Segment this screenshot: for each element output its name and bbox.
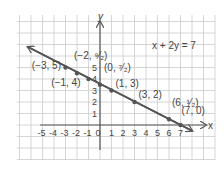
y-tick-label: 1 bbox=[92, 109, 97, 119]
x-tick-label: 7 bbox=[178, 128, 183, 138]
data-point bbox=[75, 71, 79, 75]
point-label: (0, ⁷⁄₂) bbox=[104, 62, 131, 73]
y-axis-label: y bbox=[97, 11, 104, 22]
data-point bbox=[86, 77, 90, 81]
y-tick-label: 3 bbox=[92, 86, 97, 96]
data-point bbox=[132, 100, 136, 104]
x-tick-label: 6 bbox=[167, 128, 172, 138]
x-tick-label: 5 bbox=[155, 128, 160, 138]
data-point bbox=[109, 88, 113, 92]
data-points: (−3, 5)(−2, ⁹⁄₂)(−1, 4)(0, ⁷⁄₂)(1, 3)(3,… bbox=[32, 50, 205, 127]
y-tick-label: 2 bbox=[92, 97, 97, 107]
x-tick-label: -2 bbox=[72, 128, 80, 138]
point-label: (−3, 5) bbox=[32, 60, 61, 71]
x-tick-label: -5 bbox=[38, 128, 46, 138]
x-tick-label: 0 bbox=[96, 128, 101, 138]
point-label: (1, 3) bbox=[116, 78, 139, 89]
tick-labels: -5-4-3-2-10123456712345 bbox=[38, 63, 184, 139]
point-label: (7, 0) bbox=[182, 105, 205, 116]
point-label: (−1, 4) bbox=[51, 77, 80, 88]
x-tick-label: 4 bbox=[144, 128, 149, 138]
point-label: (−2, ⁹⁄₂) bbox=[74, 50, 107, 61]
x-tick-label: -3 bbox=[61, 128, 69, 138]
x-axis-label: x bbox=[208, 120, 213, 131]
x-tick-label: -4 bbox=[49, 128, 57, 138]
x-tick-label: 1 bbox=[109, 128, 114, 138]
data-point bbox=[167, 117, 171, 121]
x-tick-label: 3 bbox=[132, 128, 137, 138]
data-point bbox=[98, 83, 102, 87]
point-label: (3, 2) bbox=[139, 89, 162, 100]
equation-label: x + 2y = 7 bbox=[152, 40, 196, 51]
data-point bbox=[63, 65, 67, 69]
y-tick-label: 5 bbox=[92, 63, 97, 73]
data-point bbox=[178, 123, 182, 127]
x-tick-label: -1 bbox=[84, 128, 92, 138]
coordinate-graph: -5-4-3-2-10123456712345 (−3, 5)(−2, ⁹⁄₂)… bbox=[0, 0, 224, 170]
x-tick-label: 2 bbox=[121, 128, 126, 138]
